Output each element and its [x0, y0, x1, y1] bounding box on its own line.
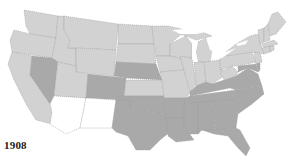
state-az	[50, 96, 86, 134]
state-me	[268, 12, 286, 36]
us-choropleth-map: 1908	[0, 0, 291, 159]
state-ne	[114, 62, 162, 80]
state-nj	[254, 52, 262, 64]
state-ri	[270, 46, 274, 52]
state-wy	[76, 48, 116, 76]
year-label: 1908	[4, 139, 27, 151]
state-sd	[116, 44, 156, 64]
state-fl	[202, 128, 250, 156]
state-nm	[80, 98, 116, 128]
state-ar	[164, 98, 186, 118]
state-nd	[118, 24, 154, 44]
state-in	[194, 62, 206, 86]
state-ia	[156, 56, 184, 72]
state-ny	[226, 34, 264, 56]
map-svg	[0, 0, 291, 159]
state-ms	[184, 102, 198, 134]
state-ks	[124, 80, 164, 96]
state-mt	[64, 16, 118, 50]
